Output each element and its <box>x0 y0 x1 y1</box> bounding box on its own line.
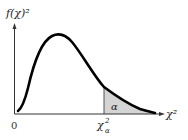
svg-text:α: α <box>105 127 110 135</box>
chi-square-density-chart: f(χ)² χ² 0 χ 2 α α <box>0 0 188 140</box>
y-axis-arrow-icon <box>13 23 17 29</box>
tail-area-label: α <box>111 101 118 112</box>
critical-value-label: χ 2 α <box>96 117 110 135</box>
svg-text:χ: χ <box>96 119 105 132</box>
svg-text:2: 2 <box>104 117 110 125</box>
origin-label: 0 <box>11 120 17 131</box>
y-axis-label: f(χ)² <box>5 7 30 20</box>
density-curve <box>18 34 155 113</box>
x-axis-label: χ² <box>165 108 177 121</box>
x-axis-arrow-icon <box>159 112 165 116</box>
